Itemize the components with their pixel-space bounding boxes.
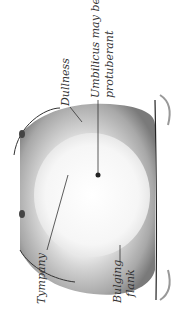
label-bulging: Bulging (112, 260, 124, 303)
umbilicus (96, 173, 101, 178)
label-umbilicus-2: protuberant (104, 31, 116, 98)
label-flank: flank (125, 269, 137, 297)
label-tympany: Tympany (36, 253, 48, 304)
label-umbilicus-1: Umbilicus may be (90, 0, 102, 98)
label-dullness: Dullness (60, 58, 72, 106)
